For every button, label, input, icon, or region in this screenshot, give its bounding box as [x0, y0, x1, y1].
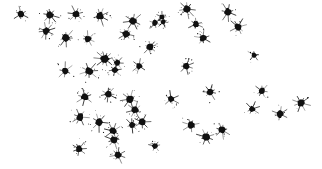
splatter-speck — [150, 143, 151, 144]
scatter-point — [77, 60, 101, 85]
splatter-speck — [39, 13, 40, 14]
scatter-point — [70, 137, 91, 158]
splatter-speck — [106, 13, 108, 15]
splatter-speck — [178, 12, 179, 13]
splatter-speck — [191, 59, 192, 60]
splatter-speck — [109, 15, 111, 17]
splatter-spike — [188, 25, 194, 28]
splatter-speck — [68, 18, 69, 19]
splatter-speck — [107, 146, 108, 147]
splatter-speck — [150, 53, 152, 55]
scatter-point — [55, 30, 77, 49]
splatter-core — [121, 29, 131, 39]
splatter-speck — [102, 69, 103, 70]
scatter-point — [201, 82, 222, 103]
splatter-speck — [137, 25, 138, 26]
splatter-spike — [256, 86, 261, 90]
splatter-speck — [105, 70, 106, 71]
splatter-speck — [107, 72, 108, 73]
scatter-point — [65, 103, 92, 130]
splatter-speck — [145, 114, 146, 115]
splatter-speck — [144, 129, 145, 130]
splatter-speck — [94, 33, 95, 34]
splatter-speck — [39, 29, 40, 30]
splatter-speck — [118, 139, 119, 140]
splatter-speck — [139, 46, 141, 48]
splatter-speck — [136, 70, 137, 71]
splatter-spike — [250, 56, 254, 60]
splatter-speck — [181, 7, 182, 8]
splatter-speck — [200, 31, 201, 32]
splatter-speck — [203, 28, 204, 29]
splatter-speck — [129, 113, 130, 114]
splatter-spike — [82, 114, 89, 121]
splatter-speck — [209, 102, 211, 104]
splatter-speck — [120, 75, 121, 76]
splatter-speck — [115, 147, 116, 148]
splatter-speck — [85, 81, 86, 82]
splatter-core — [276, 109, 285, 118]
scatter-point — [36, 21, 56, 41]
splatter-core — [167, 95, 175, 103]
splatter-speck — [39, 29, 40, 30]
splatter-speck — [111, 135, 112, 136]
splatter-speck — [83, 16, 84, 17]
splatter-speck — [155, 141, 156, 142]
splatter-speck — [118, 55, 119, 56]
splatter-speck — [197, 33, 198, 34]
scatter-point — [228, 16, 248, 38]
splatter-speck — [188, 58, 190, 60]
splatter-speck — [156, 43, 157, 44]
splatter-spike — [100, 116, 104, 121]
splatter-speck — [76, 153, 77, 154]
splatter-speck — [79, 138, 80, 139]
splatter-speck — [103, 26, 104, 27]
splatter-speck — [200, 142, 201, 143]
splatter-speck — [155, 16, 156, 17]
splatter-spike — [303, 103, 311, 105]
splatter-core — [128, 15, 139, 26]
splatter-speck — [168, 21, 169, 22]
splatter-speck — [222, 10, 223, 11]
splatter-speck — [256, 113, 257, 114]
splatter-speck — [20, 6, 21, 7]
scatter-point — [195, 124, 219, 147]
splatter-speck — [218, 124, 219, 125]
splatter-speck — [86, 44, 87, 45]
splatter-speck — [100, 115, 101, 116]
splatter-speck — [60, 15, 61, 16]
splatter-speck — [230, 19, 231, 20]
splatter-speck — [109, 88, 110, 89]
splatter-speck — [139, 131, 140, 132]
splatter-speck — [111, 57, 113, 59]
splatter-spike — [223, 4, 227, 11]
splatter-speck — [176, 103, 177, 104]
splatter-spike — [263, 85, 267, 89]
splatter-speck — [55, 23, 56, 24]
splatter-core — [223, 7, 233, 17]
splatter-speck — [150, 26, 151, 27]
splatter-speck — [201, 32, 202, 33]
splatter-speck — [114, 158, 115, 159]
splatter-speck — [88, 124, 89, 125]
splatter-core — [95, 11, 105, 21]
splatter-speck — [111, 17, 112, 18]
splatter-speck — [297, 108, 298, 109]
splatter-speck — [145, 41, 146, 42]
splatter-spike — [204, 39, 210, 42]
splatter-speck — [136, 116, 137, 117]
scatter-point — [115, 25, 136, 47]
scatter-point — [210, 122, 232, 141]
splatter-speck — [166, 95, 168, 97]
splatter-speck — [101, 53, 102, 54]
splatter-speck — [133, 39, 135, 41]
splatter-spike — [73, 145, 77, 148]
scatter-point — [73, 87, 95, 108]
splatter-core — [200, 132, 211, 143]
splatter-spike — [123, 94, 129, 98]
splatter-speck — [25, 20, 26, 21]
splatter-spike — [94, 123, 98, 128]
splatter-core — [198, 34, 207, 43]
splatter-speck — [108, 127, 109, 128]
scatter-point — [66, 4, 86, 25]
